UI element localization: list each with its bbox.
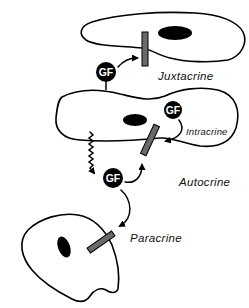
middle-cell-nucleus (123, 114, 147, 126)
bottom-cell (22, 214, 119, 301)
label-paracrine: Paracrine (130, 232, 182, 244)
gf-label: GF (99, 66, 114, 78)
juxtacrine-gf: GF (96, 58, 137, 90)
top-cell-nucleus (158, 26, 192, 40)
autocrine-gf-label: GF (106, 172, 121, 184)
bottom-cell-membrane (22, 214, 119, 301)
label-autocrine: Autocrine (178, 176, 230, 188)
middle-cell: GF (56, 88, 238, 156)
secretion-wavy-arrow-icon (89, 132, 94, 173)
top-cell (81, 12, 245, 66)
autocrine-gf: GF (103, 165, 142, 226)
top-cell-receptor (142, 32, 148, 66)
label-intracrine: Intracrine (186, 126, 228, 137)
growth-factor-signaling-diagram: GF Juxtacrine GF Intracrine GF Autocrine… (0, 0, 249, 308)
autocrine-arrow-icon (125, 165, 142, 182)
intracrine-gf-label: GF (166, 104, 181, 116)
label-juxtacrine: Juxtacrine (157, 70, 213, 82)
bottom-cell-nucleus (55, 235, 74, 260)
middle-cell-membrane (56, 88, 238, 146)
paracrine-arrow-icon (120, 190, 130, 226)
juxtacrine-arrow-icon (118, 58, 137, 67)
